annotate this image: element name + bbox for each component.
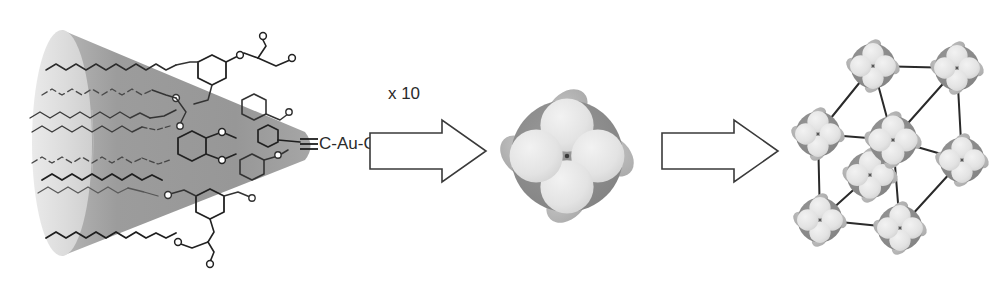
multiplier-label: x 10	[388, 84, 420, 103]
oxygen-atom	[219, 129, 226, 136]
front-lobe-left	[510, 129, 563, 182]
oxygen-atom	[165, 192, 172, 199]
oxygen-atom	[289, 55, 296, 62]
reaction-scheme-figure: C-Au-Cl x 10	[0, 0, 1007, 287]
oxygen-atom	[249, 195, 255, 201]
oxygen-atom	[175, 239, 182, 246]
sphere-center-dot	[565, 154, 569, 158]
oxygen-atom	[237, 52, 244, 59]
carbonyl-oxygen	[207, 261, 214, 268]
cone-base-ellipse	[32, 30, 92, 256]
oxygen-atom	[177, 123, 183, 129]
carbonyl-oxygen	[260, 33, 267, 40]
oxygen-atom	[286, 109, 292, 115]
oxygen-atom	[219, 157, 226, 164]
oxygen-atom	[275, 152, 281, 158]
